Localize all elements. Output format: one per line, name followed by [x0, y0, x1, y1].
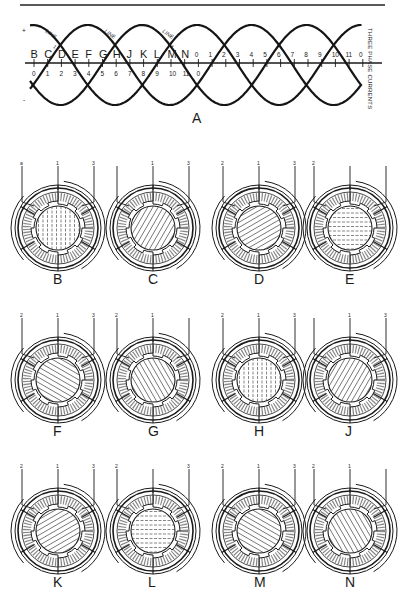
- terminal-label: 3: [92, 160, 95, 166]
- stator-b: a13B: [11, 160, 105, 287]
- terminal-label: 1: [151, 312, 154, 318]
- stator-h: 213H: [212, 312, 306, 439]
- stator-bore-teeth: [232, 353, 286, 407]
- figure-label-l: L: [148, 574, 156, 590]
- three-phase-diagram-canvas: + - BCDEFGHJKLMN 012345678910110 0123456…: [0, 0, 407, 609]
- terminal-label: 3: [293, 463, 296, 469]
- three-phase-caption: THREE PHASE CURRENTS: [367, 28, 373, 109]
- rotor: [237, 358, 281, 402]
- stator-f: 213F: [11, 312, 105, 439]
- terminal-label: 1: [257, 312, 260, 318]
- stator-j: 13J: [303, 312, 397, 439]
- stator-e: 2E: [303, 160, 397, 287]
- terminal-label: 2: [221, 312, 224, 318]
- terminal-label: 2: [221, 463, 224, 469]
- upper-tick-number: 1: [208, 51, 212, 58]
- figure-label-a: A: [192, 110, 202, 126]
- stator-k: 213K: [11, 463, 105, 590]
- terminal-label: 1: [151, 160, 154, 166]
- lower-tick-number: 0: [196, 70, 200, 77]
- figure-label-e: E: [345, 271, 354, 287]
- lower-tick-number: 9: [155, 70, 159, 77]
- field-hatch-lines: [127, 507, 179, 552]
- figure-label-k: K: [53, 574, 63, 590]
- stator-d: 213D: [212, 160, 306, 287]
- terminal-label: 1: [56, 312, 59, 318]
- plus-sign: +: [22, 27, 26, 34]
- terminal-label: 2: [115, 463, 118, 469]
- terminal-label: 2: [20, 463, 23, 469]
- figure-label-c: C: [148, 271, 158, 287]
- terminal-label: a: [20, 160, 23, 166]
- stator-bore-teeth: [323, 201, 377, 255]
- terminal-label: 1: [257, 160, 260, 166]
- figure-label-j: J: [345, 423, 352, 439]
- terminal-label: 2: [312, 160, 315, 166]
- terminal-label: 2: [312, 463, 315, 469]
- position-letter-c: C: [44, 48, 52, 60]
- upper-tick-number: 7: [291, 51, 295, 58]
- figure-label-f: F: [53, 423, 62, 439]
- terminal-label: 1: [56, 463, 59, 469]
- stator-diagrams: a13B13C213D2E213F21G213H13J213K23L213M21…: [11, 160, 397, 590]
- terminal-label: 3: [187, 463, 190, 469]
- stator-g: 21G: [106, 312, 200, 439]
- position-letter-l: L: [154, 48, 160, 60]
- lower-tick-number: 5: [101, 70, 105, 77]
- position-letter-n: N: [181, 48, 189, 60]
- figure-label-m: M: [254, 574, 266, 590]
- stator-bore-teeth: [31, 201, 85, 255]
- field-hatch-lines: [235, 354, 280, 406]
- three-phase-waveform-figure: + - BCDEFGHJKLMN 012345678910110 0123456…: [22, 25, 382, 126]
- lower-tick-number: 7: [128, 70, 132, 77]
- stator-l: 23L: [106, 463, 200, 590]
- stator-bore-teeth: [126, 504, 180, 558]
- upper-tick-number: 11: [345, 51, 352, 58]
- position-letter-e: E: [72, 48, 79, 60]
- terminal-label: 1: [257, 463, 260, 469]
- terminal-label: 1: [348, 312, 351, 318]
- terminal-label: 2: [20, 312, 23, 318]
- position-letter-b: B: [31, 48, 38, 60]
- position-letter-k: K: [140, 48, 148, 60]
- position-letter-m: M: [168, 48, 177, 60]
- terminal-label: 3: [92, 463, 95, 469]
- phase-waves: [30, 25, 362, 105]
- terminal-label: 2: [115, 312, 118, 318]
- lower-tick-number: 2: [59, 70, 63, 77]
- lower-tick-numbers: 012345678910110: [32, 70, 200, 77]
- terminal-label: 3: [293, 160, 296, 166]
- lower-tick-number: 10: [169, 70, 177, 77]
- upper-tick-number: 5: [263, 51, 267, 58]
- upper-tick-number: 9: [318, 51, 322, 58]
- upper-tick-number: 0: [359, 51, 363, 58]
- lower-tick-number: 6: [114, 70, 118, 77]
- terminal-label: 3: [293, 312, 296, 318]
- minus-sign: -: [23, 96, 25, 103]
- rotor: [328, 206, 372, 250]
- terminal-label: 3: [92, 312, 95, 318]
- upper-tick-number: 3: [236, 51, 240, 58]
- position-letter-j: J: [126, 48, 131, 60]
- field-hatch-lines: [34, 202, 79, 254]
- figure-label-n: N: [345, 574, 355, 590]
- lower-tick-number: 3: [73, 70, 77, 77]
- figure-label-g: G: [148, 423, 159, 439]
- position-letter-f: F: [85, 48, 92, 60]
- lower-tick-number: 0: [32, 70, 36, 77]
- upper-tick-number: 0: [195, 51, 199, 58]
- upper-tick-number: 6: [277, 51, 281, 58]
- position-letter-h: H: [113, 48, 121, 60]
- rotor: [36, 206, 80, 250]
- figure-label-h: H: [254, 423, 264, 439]
- position-letter-g: G: [99, 48, 108, 60]
- figure-label-b: B: [53, 271, 62, 287]
- terminal-label: 2: [221, 160, 224, 166]
- terminal-label: 3: [187, 160, 190, 166]
- upper-tick-number: 10: [332, 51, 340, 58]
- upper-tick-number: 2: [222, 51, 226, 58]
- lower-tick-number: 1: [46, 70, 50, 77]
- lower-tick-number: 4: [87, 70, 91, 77]
- figure-label-d: D: [254, 271, 264, 287]
- upper-tick-number: 4: [250, 51, 254, 58]
